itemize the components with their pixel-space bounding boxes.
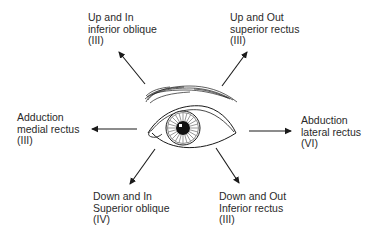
label-up-out-direction: Up and Out [230,12,299,24]
eye-icon [148,106,236,148]
arrow-up-out [222,52,247,86]
label-up-out: Up and Out superior rectus (III) [230,12,299,47]
arrow-down-in [130,149,155,184]
label-up-out-nerve: (III) [230,35,299,47]
label-down-out-nerve: (III) [219,214,286,226]
label-adduction-direction: Adduction [17,112,79,124]
eyebrow-icon [145,86,237,103]
label-adduction: Adduction medial rectus (III) [17,112,79,147]
arrow-up-in [119,52,145,84]
eye-movement-diagram: Up and In inferior oblique (III) Up and … [0,0,381,233]
label-down-out: Down and Out Inferior rectus (III) [219,191,286,226]
label-down-out-direction: Down and Out [219,191,286,203]
label-abduction: Abduction lateral rectus (VI) [301,115,361,150]
label-down-in-nerve: (IV) [93,214,169,226]
label-up-in: Up and In inferior oblique (III) [88,12,157,47]
pupil [176,121,190,135]
label-up-in-nerve: (III) [88,35,157,47]
label-down-in-direction: Down and In [93,191,169,203]
label-down-in: Down and In Superior oblique (IV) [93,191,169,226]
label-adduction-nerve: (III) [17,135,79,147]
label-up-in-direction: Up and In [88,12,157,24]
arrow-down-out [216,148,239,183]
label-abduction-direction: Abduction [301,115,361,127]
label-abduction-nerve: (VI) [301,138,361,150]
